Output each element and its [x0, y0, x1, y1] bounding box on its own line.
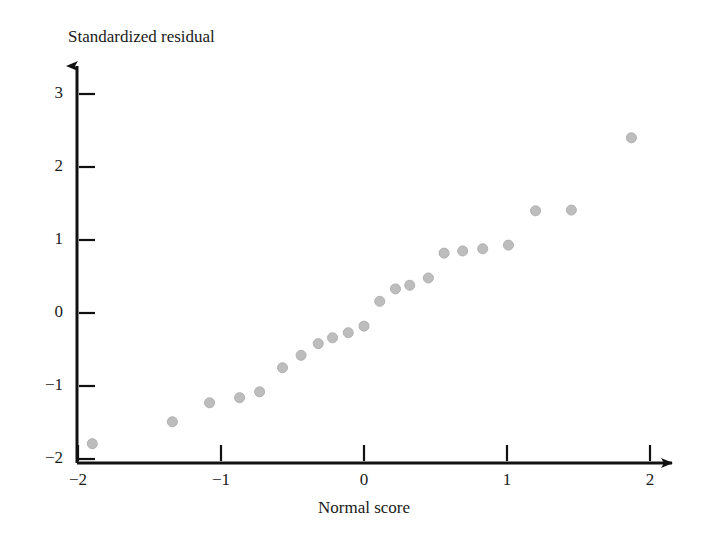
- x-tick-label-0: 0: [350, 470, 378, 490]
- data-point: [359, 321, 369, 331]
- y-tick-label--2: −2: [35, 448, 63, 468]
- data-point: [405, 280, 415, 290]
- data-point: [313, 339, 323, 349]
- x-axis-ticks: [78, 445, 650, 461]
- axes: [77, 66, 672, 463]
- data-point: [205, 398, 215, 408]
- y-axis-title: Standardized residual: [68, 27, 215, 47]
- data-point: [458, 246, 468, 256]
- data-point: [439, 248, 449, 258]
- data-point: [235, 393, 245, 403]
- data-point: [167, 417, 177, 427]
- y-axis-ticks: [79, 94, 95, 459]
- y-tick-label-3: 3: [35, 83, 63, 103]
- data-point: [423, 273, 433, 283]
- data-point: [277, 363, 287, 373]
- data-point: [328, 333, 338, 343]
- x-tick-label-1: 1: [493, 470, 521, 490]
- data-point: [566, 205, 576, 215]
- x-tick-label--2: −2: [64, 470, 92, 490]
- data-point: [626, 133, 636, 143]
- y-tick-label-1: 1: [35, 229, 63, 249]
- x-tick-label-2: 2: [636, 470, 664, 490]
- x-tick-label--1: −1: [207, 470, 235, 490]
- data-point: [503, 240, 513, 250]
- data-point: [478, 244, 488, 254]
- data-point: [296, 350, 306, 360]
- data-point: [255, 387, 265, 397]
- data-points: [87, 133, 636, 449]
- data-point: [531, 206, 541, 216]
- data-point: [375, 296, 385, 306]
- y-tick-label-2: 2: [35, 156, 63, 176]
- data-point: [87, 439, 97, 449]
- x-axis-title: Normal score: [318, 498, 410, 518]
- data-point: [343, 328, 353, 338]
- data-point: [390, 284, 400, 294]
- y-tick-label--1: −1: [35, 375, 63, 395]
- y-tick-label-0: 0: [35, 302, 63, 322]
- normal-probability-plot-figure: Standardized residual Normal score −2−10…: [0, 0, 717, 553]
